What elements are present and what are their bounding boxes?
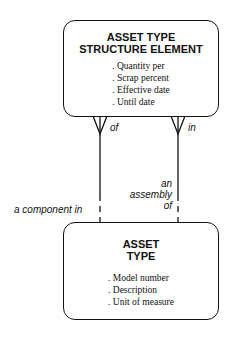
attribute-list: . Model number . Description . Unit of m…: [108, 272, 174, 308]
attribute: . Scrap percent: [112, 72, 170, 84]
attribute: . Effective date: [112, 84, 170, 96]
entity-asset-type[interactable]: ASSET TYPE . Model number . Description …: [63, 222, 219, 320]
entity-title: ASSET TYPE: [64, 238, 218, 262]
attribute-list: . Quantity per . Scrap percent . Effecti…: [112, 60, 170, 108]
entity-asset-type-structure-element[interactable]: ASSET TYPE STRUCTURE ELEMENT . Quantity …: [63, 20, 219, 117]
attribute: . Model number: [108, 272, 174, 284]
attribute: . Until date: [112, 96, 170, 108]
label-of: of: [110, 122, 118, 133]
entity-title: ASSET TYPE STRUCTURE ELEMENT: [64, 31, 218, 55]
label-an-assembly-of: an assembly of: [120, 178, 172, 211]
label-a-component-in: a component in: [14, 204, 82, 215]
attribute: . Description: [108, 284, 174, 296]
attribute: . Unit of measure: [108, 296, 174, 308]
label-in: in: [188, 122, 196, 133]
attribute: . Quantity per: [112, 60, 170, 72]
